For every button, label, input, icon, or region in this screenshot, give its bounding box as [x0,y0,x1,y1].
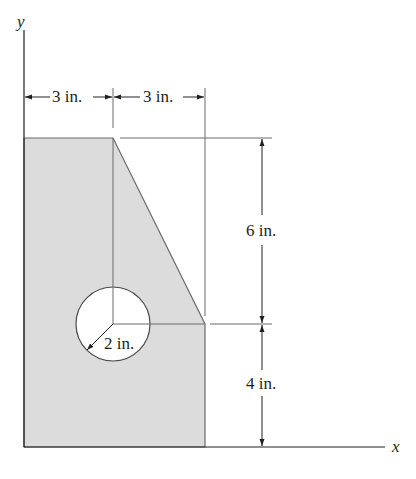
dim-label-4in: 4 in. [246,374,276,393]
dim-label-6in: 6 in. [246,221,276,240]
composite-area-diagram: y x 3 in. 3 in. 6 in. 4 in. 2 in. [0,0,416,479]
x-axis-label: x [391,437,400,456]
y-axis-label: y [15,12,25,31]
dim-label-radius: 2 in. [104,334,134,353]
dim-label-3in-right: 3 in. [143,87,173,106]
dim-label-3in-left: 3 in. [52,87,82,106]
